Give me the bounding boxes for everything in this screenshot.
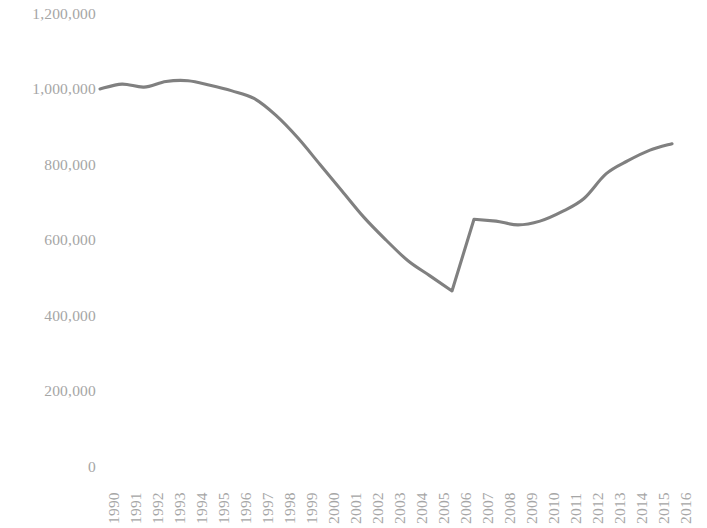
x-axis-tick-label: 1991 <box>128 492 144 524</box>
x-axis-tick-label: 2009 <box>524 492 540 524</box>
x-axis-tick-label: 1999 <box>304 492 320 524</box>
x-axis-tick-label: 2004 <box>414 492 430 524</box>
x-axis-tick-label: 2003 <box>392 492 408 524</box>
line-chart: 0200,000400,000600,000800,0001,000,0001,… <box>0 0 707 528</box>
x-axis-tick-label: 2001 <box>348 492 364 524</box>
x-axis-tick-label: 1992 <box>150 492 166 524</box>
x-axis-tick-label: 2005 <box>436 492 452 524</box>
x-axis-tick-label: 2013 <box>612 492 628 524</box>
x-axis-tick-label: 1996 <box>238 492 254 524</box>
x-axis-tick-label: 1994 <box>194 492 210 524</box>
x-axis-tick-label: 1997 <box>260 492 276 524</box>
x-axis-tick-label: 1995 <box>216 492 232 524</box>
x-axis: 1990199119921993199419951996199719981999… <box>0 0 707 528</box>
x-axis-tick-label: 2002 <box>370 492 386 524</box>
x-axis-tick-label: 2006 <box>458 492 474 524</box>
x-axis-tick-label: 2010 <box>546 492 562 524</box>
x-axis-tick-label: 2007 <box>480 492 496 524</box>
x-axis-tick-label: 2011 <box>568 493 584 524</box>
x-axis-tick-label: 1998 <box>282 492 298 524</box>
x-axis-tick-label: 2008 <box>502 492 518 524</box>
x-axis-tick-label: 2014 <box>634 492 650 524</box>
x-axis-tick-label: 2012 <box>590 492 606 524</box>
x-axis-tick-label: 1990 <box>106 492 122 524</box>
x-axis-tick-label: 2015 <box>656 492 672 524</box>
x-axis-tick-label: 2000 <box>326 492 342 524</box>
x-axis-tick-label: 2016 <box>678 492 694 524</box>
x-axis-tick-label: 1993 <box>172 492 188 524</box>
